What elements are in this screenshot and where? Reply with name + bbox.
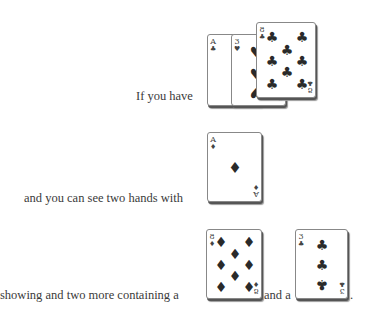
- sentence-two-hands: and you can see two hands with: [24, 191, 183, 206]
- club-icon: ♣: [316, 238, 329, 252]
- card-index: A♣: [210, 38, 216, 53]
- club-icon: ♣: [266, 30, 279, 44]
- card-index: 8♣: [259, 26, 265, 41]
- card-index: 3♣: [298, 233, 304, 248]
- club-icon: ♣: [316, 278, 329, 292]
- diamond-icon: ♦: [228, 161, 241, 175]
- heart-icon: ♥: [234, 46, 240, 53]
- club-icon: ♣: [281, 65, 294, 79]
- diamond-icon: ♦: [243, 258, 256, 272]
- club-icon: ♣: [296, 54, 309, 68]
- card-index: 3♣: [339, 280, 345, 295]
- diamond-icon: ♦: [229, 269, 242, 283]
- sentence-if-you-have: If you have: [136, 89, 193, 104]
- card-index: 3♥: [234, 38, 240, 53]
- sentence-showing-two-more: showing and two more containing a: [0, 288, 179, 303]
- diamond-icon: ♦: [215, 280, 228, 294]
- text-period: .: [350, 288, 353, 303]
- club-icon: ♣: [266, 77, 279, 91]
- club-icon: ♣: [266, 54, 279, 68]
- club-icon: ♣: [281, 43, 294, 57]
- club-icon: ♣: [298, 241, 304, 248]
- card-index: 8♣: [307, 79, 313, 94]
- card-index: A♦: [210, 136, 216, 151]
- card-ace-of-diamonds: A♦ ♦ A♦: [207, 132, 262, 202]
- diamond-icon: ♦: [215, 235, 228, 249]
- diamond-icon: ♦: [210, 144, 216, 151]
- card-index: 8♦: [253, 280, 259, 295]
- card-eight-of-clubs: 8♣ ♣ ♣ ♣ ♣ ♣ ♣ ♣ ♣ 8♣: [256, 22, 316, 98]
- club-icon: ♣: [210, 46, 216, 53]
- card-index: A♦: [253, 183, 259, 198]
- diamond-icon: ♦: [215, 258, 228, 272]
- text-and-a: and a: [264, 288, 291, 303]
- diamond-icon: ♦: [243, 235, 256, 249]
- club-icon: ♣: [296, 30, 309, 44]
- card-three-of-clubs: 3♣ ♣ ♣ ♣ 3♣: [295, 229, 348, 299]
- club-icon: ♣: [316, 258, 329, 272]
- club-icon: ♣: [259, 34, 265, 41]
- card-eight-of-diamonds: 8♦ ♦ ♦ ♦ ♦ ♦ ♦ ♦ ♦ 8♦: [206, 229, 262, 299]
- diamond-icon: ♦: [229, 247, 242, 261]
